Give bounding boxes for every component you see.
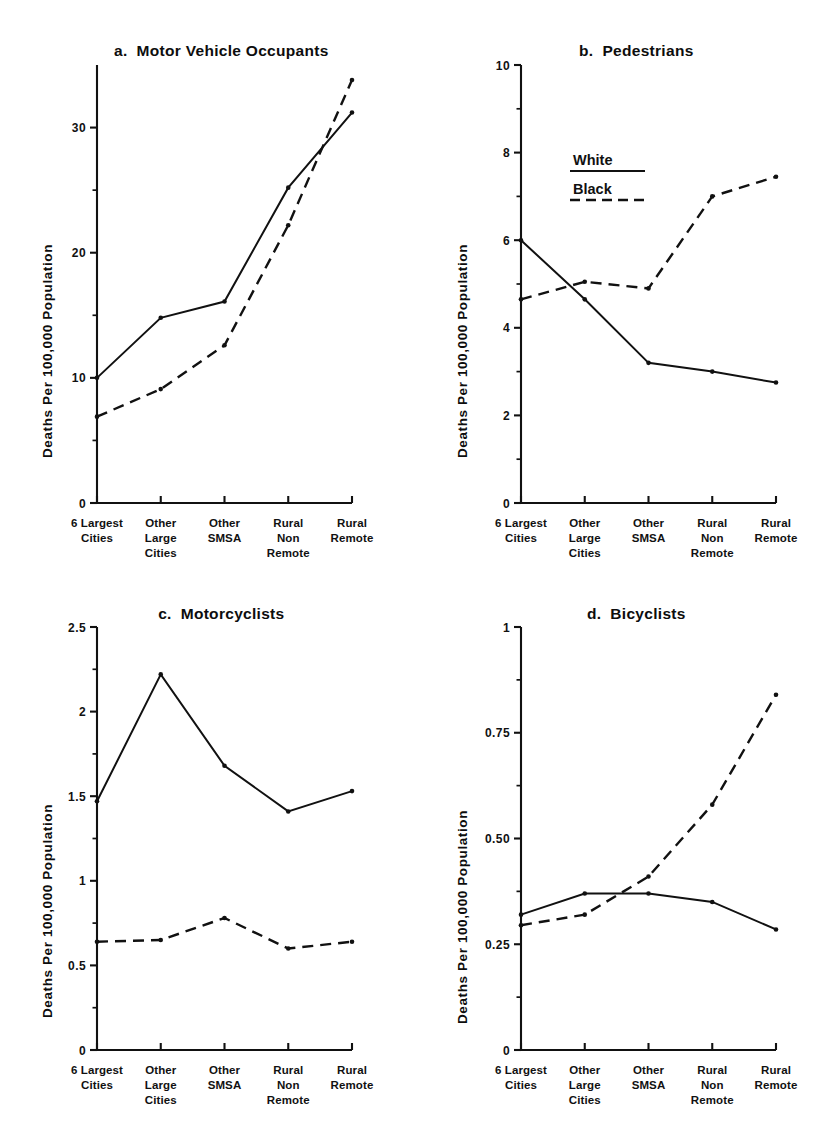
- data-point-white: [95, 376, 100, 381]
- x-axis-category-label: Other: [569, 1064, 601, 1076]
- chart-panel-b: b.Pedestrians 02468106 LargestCitiesOthe…: [415, 0, 830, 563]
- y-tick-label: 6: [503, 234, 510, 248]
- x-axis-category-label: Non: [277, 1079, 300, 1091]
- x-axis-category-label: SMSA: [208, 1079, 242, 1091]
- y-tick-label: 0: [503, 1044, 510, 1058]
- chart-panel-d: d.Bicyclists 00.250.500.7516 LargestCiti…: [415, 563, 830, 1126]
- x-axis-category-label: Cities: [569, 1094, 601, 1106]
- data-point-black: [519, 297, 524, 302]
- x-axis-category-label: Non: [701, 1079, 724, 1091]
- data-point-white: [519, 238, 524, 243]
- series-line-black: [97, 80, 352, 417]
- y-tick-label: 20: [72, 246, 86, 260]
- x-axis-category-label: Remote: [267, 547, 310, 559]
- series-line-white: [97, 674, 352, 811]
- x-axis-category-label: Remote: [331, 1079, 374, 1091]
- x-axis-category-label: Rural: [273, 517, 303, 529]
- data-point-black: [222, 343, 227, 348]
- x-axis-category-label: 6 Largest: [71, 1064, 123, 1076]
- series-line-black: [521, 695, 776, 926]
- x-axis-category-label: Remote: [691, 1094, 734, 1106]
- data-point-black: [710, 194, 715, 199]
- y-tick-label: 4: [503, 321, 510, 335]
- data-point-black: [222, 916, 227, 921]
- y-tick-label: 0: [79, 1044, 86, 1058]
- y-tick-label: 10: [72, 371, 86, 385]
- x-axis-category-label: Cities: [81, 532, 113, 544]
- x-axis-category-label: SMSA: [632, 1079, 666, 1091]
- x-axis-category-label: 6 Largest: [71, 517, 123, 529]
- data-point-white: [774, 927, 779, 932]
- x-axis-category-label: Large: [569, 532, 601, 544]
- data-point-white: [95, 799, 100, 804]
- x-axis-category-label: Remote: [691, 547, 734, 559]
- y-tick-label: 10: [496, 59, 510, 73]
- series-line-white: [521, 893, 776, 929]
- x-axis-category-label: Cities: [505, 532, 537, 544]
- data-point-white: [350, 789, 355, 794]
- x-axis-category-label: Other: [209, 517, 241, 529]
- x-axis-category-label: SMSA: [208, 532, 242, 544]
- x-axis-category-label: 6 Largest: [495, 517, 547, 529]
- x-axis-category-label: Other: [633, 517, 665, 529]
- data-point-black: [582, 280, 587, 285]
- data-point-black: [710, 802, 715, 807]
- data-point-white: [710, 369, 715, 374]
- panel-c-y-axis-label: Deaths Per 100,000 Population: [40, 804, 55, 1018]
- x-axis-category-label: Non: [701, 532, 724, 544]
- data-point-black: [158, 387, 163, 392]
- x-axis-category-label: Cities: [145, 1094, 177, 1106]
- x-axis-category-label: Cities: [81, 1079, 113, 1091]
- panel-c-plot: 00.511.522.56 LargestCitiesOtherLargeCit…: [0, 563, 415, 1126]
- x-axis-category-label: Cities: [145, 547, 177, 559]
- y-tick-label: 30: [72, 121, 86, 135]
- y-tick-label: 1: [503, 621, 510, 635]
- data-point-black: [646, 874, 651, 879]
- panel-d-plot: 00.250.500.7516 LargestCitiesOtherLargeC…: [415, 563, 830, 1126]
- x-axis-category-label: Large: [145, 532, 177, 544]
- x-axis-category-label: Cities: [569, 547, 601, 559]
- panel-a-plot: 01020306 LargestCitiesOtherLargeCitiesOt…: [0, 0, 415, 563]
- y-tick-label: 0.25: [485, 938, 510, 952]
- panel-b-y-axis-label: Deaths Per 100,000 Population: [455, 244, 470, 458]
- x-axis-category-label: Rural: [697, 1064, 727, 1076]
- data-point-white: [582, 891, 587, 896]
- data-point-black: [519, 923, 524, 928]
- series-line-black: [521, 177, 776, 300]
- x-axis-category-label: SMSA: [632, 532, 666, 544]
- series-line-white: [97, 113, 352, 378]
- x-axis-category-label: Other: [569, 517, 601, 529]
- panel-a-y-axis-label: Deaths Per 100,000 Population: [40, 244, 55, 458]
- x-axis-category-label: Remote: [755, 1079, 798, 1091]
- series-line-black: [97, 918, 352, 948]
- data-point-black: [95, 939, 100, 944]
- panel-d-y-axis-label: Deaths Per 100,000 Population: [455, 810, 470, 1024]
- y-tick-label: 2.5: [68, 621, 86, 635]
- data-point-white: [222, 763, 227, 768]
- data-point-white: [774, 380, 779, 385]
- x-axis-category-label: Rural: [273, 1064, 303, 1076]
- data-point-white: [350, 110, 355, 115]
- x-axis-category-label: Cities: [505, 1079, 537, 1091]
- x-axis-category-label: Remote: [331, 532, 374, 544]
- x-axis-category-label: Other: [633, 1064, 665, 1076]
- y-tick-label: 2: [79, 705, 86, 719]
- data-point-black: [286, 223, 291, 228]
- data-point-white: [519, 912, 524, 917]
- data-point-white: [222, 299, 227, 304]
- y-tick-label: 0.5: [68, 959, 86, 973]
- chart-panel-c: c.Motorcyclists 00.511.522.56 LargestCit…: [0, 563, 415, 1126]
- panel-b-plot: 02468106 LargestCitiesOtherLargeCitiesOt…: [415, 0, 830, 563]
- x-axis-category-label: 6 Largest: [495, 1064, 547, 1076]
- x-axis-category-label: Large: [145, 1079, 177, 1091]
- data-point-white: [286, 809, 291, 814]
- chart-panel-a: a.Motor Vehicle Occupants 01020306 Large…: [0, 0, 415, 563]
- data-point-black: [286, 946, 291, 951]
- data-point-white: [646, 361, 651, 366]
- data-point-black: [158, 938, 163, 943]
- y-tick-label: 0: [503, 497, 510, 511]
- data-point-white: [286, 185, 291, 190]
- x-axis-category-label: Non: [277, 532, 300, 544]
- figure-panel-grid: a.Motor Vehicle Occupants 01020306 Large…: [0, 0, 830, 1126]
- x-axis-category-label: Rural: [761, 1064, 791, 1076]
